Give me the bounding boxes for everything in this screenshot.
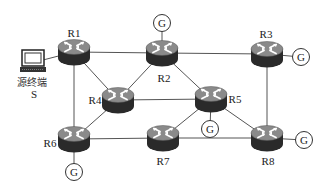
router-label: R6	[44, 137, 57, 149]
computer-icon	[20, 50, 46, 72]
router-r4: R4	[89, 88, 134, 114]
gateway-node: G	[202, 121, 219, 138]
router-r2: R2	[146, 41, 178, 85]
router-icon	[147, 126, 179, 152]
router-icon	[251, 126, 283, 152]
gateway-node: G	[154, 15, 171, 32]
router-r3: R3	[251, 28, 283, 68]
router-label: R5	[229, 93, 242, 105]
router-icon	[102, 88, 134, 114]
router-r6: R6	[44, 127, 90, 153]
gateway-label: G	[158, 17, 166, 29]
source-label: 源终端	[17, 76, 47, 88]
routers-layer: R1R2R3R4R5R6R7R8	[44, 27, 283, 167]
router-icon	[58, 127, 90, 153]
router-r1: R1	[58, 27, 90, 66]
gateway-label: G	[70, 166, 78, 178]
gateway-label: G	[300, 134, 308, 146]
router-label: R7	[157, 155, 170, 167]
gateway-node: G	[296, 132, 313, 149]
router-label: R1	[68, 27, 81, 39]
router-label: R4	[89, 94, 102, 106]
network-diagram: GGGGG R1R2R3R4R5R6R7R8 源终端 S	[0, 0, 329, 190]
gateway-label: G	[206, 123, 214, 135]
gateway-node: G	[66, 164, 83, 181]
source-terminal: 源终端 S	[17, 50, 47, 100]
router-icon	[251, 42, 283, 68]
router-icon	[146, 41, 178, 67]
router-icon	[58, 40, 90, 66]
router-r5: R5	[195, 87, 242, 113]
router-r8: R8	[251, 126, 283, 168]
router-r7: R7	[147, 126, 179, 168]
router-label: R3	[260, 28, 273, 40]
router-label: R2	[158, 72, 171, 84]
gateway-label: G	[297, 51, 305, 63]
router-icon	[195, 87, 227, 113]
gateway-node: G	[293, 49, 310, 66]
source-id-label: S	[31, 88, 37, 100]
router-label: R8	[262, 155, 275, 167]
